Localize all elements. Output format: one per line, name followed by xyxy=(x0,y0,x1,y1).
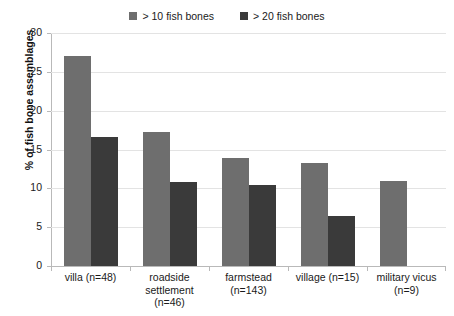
legend-label-series-2: > 20 fish bones xyxy=(253,11,325,22)
category-label-line: military vicus xyxy=(368,271,445,284)
bar xyxy=(301,163,328,266)
category-label-line: roadside xyxy=(131,271,208,284)
bar xyxy=(222,158,249,266)
y-axis-tick-label: 30 xyxy=(8,27,42,38)
y-axis-tick-label: 20 xyxy=(8,105,42,116)
fish-bone-bar-chart: > 10 fish bones > 20 fish bones % of fis… xyxy=(0,0,454,316)
category-label-line: (n=46) xyxy=(131,296,208,309)
x-axis-category-label: roadsidesettlement(n=46) xyxy=(130,271,209,309)
y-axis-tick-label: 25 xyxy=(8,66,42,77)
category-label-line: villa (n=48) xyxy=(52,271,129,284)
legend-label-series-1: > 10 fish bones xyxy=(142,11,214,22)
square-swatch-icon xyxy=(129,12,137,20)
chart-legend: > 10 fish bones > 20 fish bones xyxy=(0,6,454,26)
category-label-line: farmstead xyxy=(210,271,287,284)
x-axis-category-label: villa (n=48) xyxy=(51,271,130,309)
x-axis-category-label: military vicus(n=9) xyxy=(367,271,446,309)
bar xyxy=(249,185,276,266)
bar xyxy=(143,132,170,266)
y-axis-tick-label: 15 xyxy=(8,144,42,155)
bar-group xyxy=(51,33,130,266)
bar-group xyxy=(130,33,209,266)
y-axis-tick-label: 0 xyxy=(8,260,42,271)
bar-group xyxy=(367,33,446,266)
bar xyxy=(91,137,118,266)
category-label-line: (n=143) xyxy=(210,284,287,297)
legend-entry-series-1: > 10 fish bones xyxy=(129,11,214,22)
y-axis-tick-label: 5 xyxy=(8,221,42,232)
bar-group xyxy=(209,33,288,266)
y-axis-tick-label: 10 xyxy=(8,182,42,193)
x-axis-category-label: village (n=15) xyxy=(288,271,367,309)
square-swatch-icon xyxy=(240,12,248,20)
x-axis-category-label: farmstead(n=143) xyxy=(209,271,288,309)
x-axis-category-labels: villa (n=48)roadsidesettlement(n=46)farm… xyxy=(51,271,446,309)
bar xyxy=(328,216,355,266)
category-label-line: settlement xyxy=(131,284,208,297)
category-label-line: village (n=15) xyxy=(289,271,366,284)
bar-group xyxy=(288,33,367,266)
legend-entry-series-2: > 20 fish bones xyxy=(240,11,325,22)
category-label-line: (n=9) xyxy=(368,284,445,297)
bar xyxy=(170,182,197,266)
bar xyxy=(64,56,91,266)
bar-series-container xyxy=(51,33,446,266)
bar xyxy=(380,181,407,266)
